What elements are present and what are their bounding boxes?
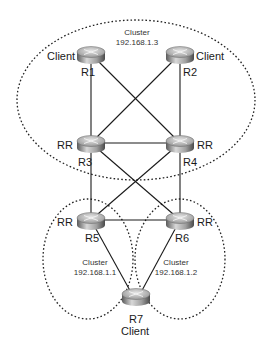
router-R1-icon bbox=[77, 47, 105, 65]
cluster-right-address: 192.168.1.2 bbox=[153, 268, 199, 278]
router-R4-name: R4 bbox=[183, 156, 197, 168]
cluster-top-title: Cluster bbox=[114, 28, 160, 38]
router-R3-name: R3 bbox=[78, 156, 92, 168]
cluster-left-label: Cluster 192.168.1.1 bbox=[72, 258, 118, 278]
router-R3-role: RR bbox=[57, 139, 73, 151]
router-R5-icon bbox=[77, 213, 105, 231]
router-R7-name: R7 bbox=[129, 313, 143, 325]
router-R2-name: R2 bbox=[183, 66, 197, 78]
router-R2-icon bbox=[166, 47, 194, 65]
router-R7-role: Client bbox=[121, 325, 149, 337]
router-R7-icon bbox=[122, 289, 150, 307]
router-R6-role: RR bbox=[197, 216, 213, 228]
router-R6-icon bbox=[166, 213, 194, 231]
router-R5-name: R5 bbox=[85, 232, 99, 244]
router-R4-role: RR bbox=[197, 139, 213, 151]
router-R5-role: RR bbox=[57, 216, 73, 228]
router-R2-role: Client bbox=[196, 50, 224, 62]
cluster-top-label: Cluster 192.168.1.3 bbox=[114, 28, 160, 48]
router-R1-role: Client bbox=[47, 50, 75, 62]
cluster-top-address: 192.168.1.3 bbox=[114, 38, 160, 48]
cluster-right-title: Cluster bbox=[153, 258, 199, 268]
cluster-right-label: Cluster 192.168.1.2 bbox=[153, 258, 199, 278]
router-R6-name: R6 bbox=[175, 232, 189, 244]
network-diagram bbox=[0, 0, 268, 349]
cluster-boundaries bbox=[17, 20, 255, 319]
router-R1-name: R1 bbox=[81, 66, 95, 78]
router-R3-icon bbox=[77, 136, 105, 154]
router-R4-icon bbox=[166, 136, 194, 154]
cluster-left-address: 192.168.1.1 bbox=[72, 268, 118, 278]
cluster-left-title: Cluster bbox=[72, 258, 118, 268]
